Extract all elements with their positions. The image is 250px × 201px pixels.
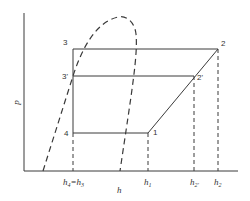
point-3p-label: 3' — [62, 73, 68, 81]
x-axis-label: h — [117, 186, 122, 195]
tick-h2p: h2' — [190, 178, 199, 188]
point-2p-label: 2' — [197, 74, 203, 82]
y-axis-label: p — [12, 100, 21, 105]
point-2-label: 2 — [221, 40, 225, 48]
compression-line-1-2 — [148, 49, 218, 133]
point-3-label: 3 — [63, 39, 67, 47]
tick-h1: h1 — [144, 178, 152, 188]
tick-h4-eq-h3: h4=h3 — [63, 178, 84, 188]
point-4-label: 4 — [64, 130, 68, 138]
saturation-curve — [43, 17, 136, 171]
point-1-label: 1 — [153, 129, 157, 137]
tick-h2: h2 — [214, 178, 222, 188]
ph-diagram — [0, 0, 250, 201]
